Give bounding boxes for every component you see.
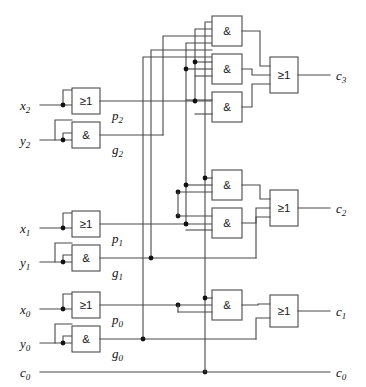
label-g1: g1 [112,265,123,282]
and-gate-c3-a-label: & [223,25,231,37]
label-c0-out: c0 [336,365,347,382]
junction-c3b2 [193,60,198,65]
and-gate-c3-c-label: & [223,101,231,113]
bus-c0-riser [205,22,212,372]
bit-slice-2: ≥1 & [40,88,232,148]
junction-c3c [193,99,197,103]
and-gate-bit1-label: & [82,252,90,264]
junction-g0 [141,337,146,342]
label-y0: y0 [18,336,31,353]
label-g2: g2 [112,142,124,159]
or-gate-bit1-label: ≥1 [80,218,93,230]
or-gate-c2-label: ≥1 [278,202,291,214]
label-c2: c2 [336,201,347,218]
junction-g1 [149,256,154,261]
c3-and-cluster: & & & [184,16,242,122]
wire-c3c-out [242,84,270,107]
or-gate-bit2-label: ≥1 [80,95,93,107]
junction-y2 [61,138,66,143]
and-gate-c2-a-label: & [223,179,231,191]
label-x1: x1 [19,221,30,238]
junction-x0 [61,307,66,312]
junction-y0 [61,341,66,346]
wire-c3a-out [242,31,270,66]
wire-g1-to-c2or [256,217,270,258]
c3-or-stage: ≥1 [242,31,330,107]
wire-x0-to-or [63,294,72,309]
bus-p2-riser [195,29,212,101]
label-p2: p2 [111,108,124,125]
wire-c1and-out [242,304,270,305]
junction-c1a [203,296,208,301]
junction-c3b [184,67,189,72]
and-gate-bit2-label: & [82,129,90,141]
and-gate-bit0-label: & [82,333,90,345]
wire-x1-to-or [63,213,72,228]
circuit-diagram-canvas: ≥1 & ≥1 & [0,0,366,387]
circuit-svg: ≥1 & ≥1 & [0,0,366,387]
bus-p1-riser [186,43,212,224]
and-gate-c1-label: & [223,299,231,311]
label-c0-in: c0 [20,365,31,382]
label-y1: y1 [18,255,30,272]
wire-c3b-out [242,69,270,75]
wire-x2-to-or [63,90,72,105]
bus-g1-riser [151,50,212,258]
label-c3: c3 [336,68,347,85]
or-gate-bit0-label: ≥1 [80,299,93,311]
label-x2: x2 [19,98,31,115]
label-p0: p0 [111,312,124,329]
label-x0: x0 [19,302,31,319]
junction-c2a1 [203,176,208,181]
c2-or-stage: ≥1 [242,185,330,258]
wire-c2a-out [242,185,270,199]
junction-x2 [61,103,66,108]
junction-x1 [61,226,66,231]
junction-y1 [61,260,66,265]
or-gate-c1-label: ≥1 [278,305,291,317]
label-y2: y2 [18,133,31,150]
and-gate-c3-b-label: & [223,63,231,75]
wire-g0-to-c1or [256,318,270,339]
label-g0: g0 [112,346,124,363]
and-gate-c2-b-label: & [223,217,231,229]
c1-or-stage: ≥1 [242,295,330,339]
or-gate-c3-label: ≥1 [278,69,291,81]
label-p1: p1 [111,231,123,248]
junction-c2b2 [184,222,188,226]
label-c1: c1 [336,304,346,321]
junction-c2a2 [184,183,189,188]
